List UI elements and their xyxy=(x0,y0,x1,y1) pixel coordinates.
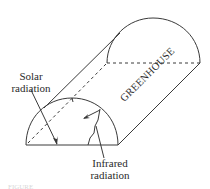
back-arch xyxy=(107,18,200,63)
infrared-label-line2: radiation xyxy=(84,169,136,181)
front-arch xyxy=(26,98,118,145)
infrared-arrowhead-icon xyxy=(83,114,90,119)
infrared-leader xyxy=(96,126,104,158)
bottom-right-edge xyxy=(118,63,200,145)
solar-radiation-label: Solar radiation xyxy=(5,70,57,94)
solar-label-line2: radiation xyxy=(5,82,57,94)
infrared-label-line1: Infrared xyxy=(84,157,136,169)
arch-tick xyxy=(72,98,73,102)
infrared-path xyxy=(88,109,100,145)
figure-caption-fragment: FIGURE xyxy=(8,183,33,189)
infrared-radiation-label: Infrared radiation xyxy=(84,157,136,181)
solar-label-line1: Solar xyxy=(5,70,57,82)
